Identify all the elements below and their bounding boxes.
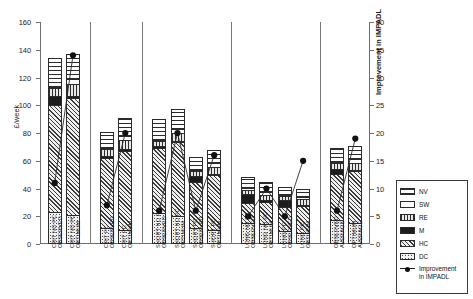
y2-tick-label: 20 <box>376 129 398 138</box>
x-axis-label: SHORT PC OPTIMUM <box>210 184 222 248</box>
bar-segment-re <box>208 168 220 175</box>
y-tick-label: 120 <box>5 74 31 83</box>
y2-tick-mark <box>370 133 374 134</box>
y-tick-label: 140 <box>5 46 31 55</box>
chart-legend: NVSWREMHCDC Improvement in IMPADL <box>396 180 468 294</box>
bar-segment-nv <box>190 158 202 172</box>
legend-item-m: M <box>400 224 464 237</box>
legend-swatch-re <box>400 214 415 221</box>
y-tick-label: 160 <box>5 18 31 27</box>
y2-tick-label: 15 <box>376 157 398 166</box>
x-axis-label: LONG NO PC OPTIMUM <box>262 184 274 248</box>
y2-tick-label: 0 <box>376 240 398 249</box>
legend-improvement-line2: in IMPADL <box>419 273 449 280</box>
legend-label: RE <box>419 214 428 221</box>
bar-segment-m <box>49 97 61 105</box>
legend-swatch-sw <box>400 201 415 208</box>
x-axis-label: CRIT PC OPTIMUM <box>121 184 133 248</box>
bar-segment-re <box>67 85 79 97</box>
legend-item-hc: HC <box>400 237 464 250</box>
legend-label: NV <box>419 188 428 195</box>
x-axis-label: CRIT NO PC OPTIMUM <box>69 184 81 248</box>
y-tick-label: 60 <box>5 157 31 166</box>
y2-tick-mark <box>370 22 374 23</box>
bar-segment-nv <box>172 110 184 129</box>
y2-tick-mark <box>370 161 374 162</box>
y2-tick-label: 30 <box>376 74 398 83</box>
bar-segment-re <box>101 150 113 157</box>
bar-segment-re <box>49 89 61 97</box>
y-tick-label: 0 <box>5 240 31 249</box>
line-marker-icon <box>400 265 415 272</box>
legend-item-dc: DC <box>400 250 464 263</box>
x-axis-label: CRIT PC OBSERVED <box>103 184 115 248</box>
bar-segment-nv <box>119 119 131 137</box>
bar-segment-nv <box>67 55 79 80</box>
y-tick-label: 100 <box>5 101 31 110</box>
bar-segment-nv <box>208 151 220 165</box>
y-tick-label: 40 <box>5 185 31 194</box>
x-axis-label: OBSERVED AVERAGE <box>333 184 345 248</box>
bar-segment-m <box>190 177 202 184</box>
legend-item-improvement: Improvement in IMPADL <box>400 265 464 277</box>
bar-segment-nv <box>101 133 113 149</box>
legend-swatch-m <box>400 227 415 234</box>
y2-tick-mark <box>370 105 374 106</box>
y2-tick-mark <box>370 78 374 79</box>
bar-segment-re <box>119 141 131 151</box>
y2-tick-label: 5 <box>376 212 398 221</box>
legend-label: M <box>419 227 424 234</box>
legend-swatch-hc <box>400 240 415 247</box>
legend-item-sw: SW <box>400 198 464 211</box>
bar-segment-nv <box>349 147 361 161</box>
chart-container: £/week Improvement in IMPADL 02040608010… <box>0 0 473 299</box>
y2-tick-label: 10 <box>376 185 398 194</box>
bar-segment-nv <box>49 59 61 88</box>
x-axis-label: SHORT PC OBSERVED <box>192 184 204 248</box>
legend-swatch-nv <box>400 188 415 195</box>
y2-tick-mark <box>370 189 374 190</box>
bar-segment-nv <box>153 120 165 140</box>
y2-tick-label: 35 <box>376 46 398 55</box>
x-axis-label: LONG PC OBSERVED <box>281 184 293 248</box>
y-tick-label: 20 <box>5 212 31 221</box>
legend-swatch-dc <box>400 253 415 260</box>
bar-segment-re <box>349 164 361 171</box>
x-axis-label: SHORT NO PC OPTIMUM <box>174 184 186 248</box>
y-tick-label: 80 <box>5 129 31 138</box>
plot-area <box>40 22 370 244</box>
legend-label: DC <box>419 253 428 260</box>
bar-segment-nv <box>331 149 343 163</box>
y2-tick-mark <box>370 50 374 51</box>
legend-label: HC <box>419 240 428 247</box>
x-axis-label: CRIT NO PC OBSERVED <box>51 184 63 248</box>
y-tick-mark <box>36 244 40 245</box>
x-axis-label: OPTIMUM AVERAGE <box>351 184 363 248</box>
x-axis-label: LONG NO PC OBSERVED <box>244 184 256 248</box>
y2-tick-mark <box>370 244 374 245</box>
bar-segment-re <box>172 134 184 142</box>
legend-label: SW <box>419 201 429 208</box>
x-axis-label: SHORT NO PC OBSERVED <box>155 184 167 248</box>
legend-item-re: RE <box>400 211 464 224</box>
y2-tick-label: 40 <box>376 18 398 27</box>
x-axis-label: LONG PC OPTIMUM <box>299 184 311 248</box>
legend-item-nv: NV <box>400 185 464 198</box>
y2-tick-label: 25 <box>376 101 398 110</box>
legend-rows: NVSWREMHCDC <box>400 185 464 263</box>
y2-tick-mark <box>370 216 374 217</box>
legend-improvement-line1: Improvement <box>419 265 456 272</box>
